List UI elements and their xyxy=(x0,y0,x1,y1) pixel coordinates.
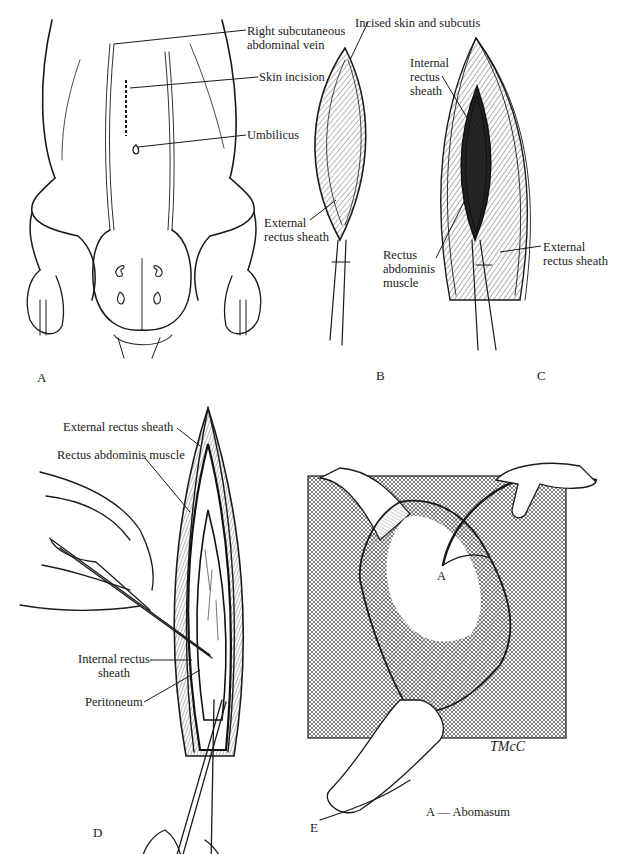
legend-abomasum: A — Abomasum xyxy=(426,805,510,819)
panel-letter-a: A xyxy=(37,370,46,386)
panel-c: Internal rectus sheath Rectus abdominis … xyxy=(400,0,627,420)
panel-letter-e: E xyxy=(310,820,318,836)
label-rectus-abdominis-muscle-c: Rectus abdominis muscle xyxy=(383,248,435,290)
skin-incision-illustration xyxy=(250,0,420,420)
abomasum-exteriorized-illustration xyxy=(300,460,627,854)
label-external-rectus-sheath-b: External rectus sheath xyxy=(264,216,329,244)
panel-letter-b: B xyxy=(376,368,385,384)
label-peritoneum: Peritoneum xyxy=(85,695,143,709)
artist-signature: TMcC xyxy=(490,740,525,754)
panel-letter-c: C xyxy=(537,368,546,384)
label-rectus-abdominis-muscle-d: Rectus abdominis muscle xyxy=(57,448,185,462)
panel-e: A TMcC A — Abomasum E xyxy=(300,460,627,854)
panel-b: Incised skin and subcutis External rectu… xyxy=(250,0,420,420)
label-internal-rectus-sheath-c: Internal rectus sheath xyxy=(410,56,449,98)
label-external-rectus-sheath-d: External rectus sheath xyxy=(63,420,173,434)
panel-d: External rectus sheath Rectus abdominis … xyxy=(0,400,300,854)
panel-letter-d: D xyxy=(93,825,102,841)
label-abomasum-marker: A xyxy=(437,569,446,583)
label-external-rectus-sheath-c: External rectus sheath xyxy=(543,240,608,268)
peritoneum-incision-illustration xyxy=(0,400,300,854)
label-internal-rectus-sheath-d: Internal rectus sheath xyxy=(78,652,150,680)
